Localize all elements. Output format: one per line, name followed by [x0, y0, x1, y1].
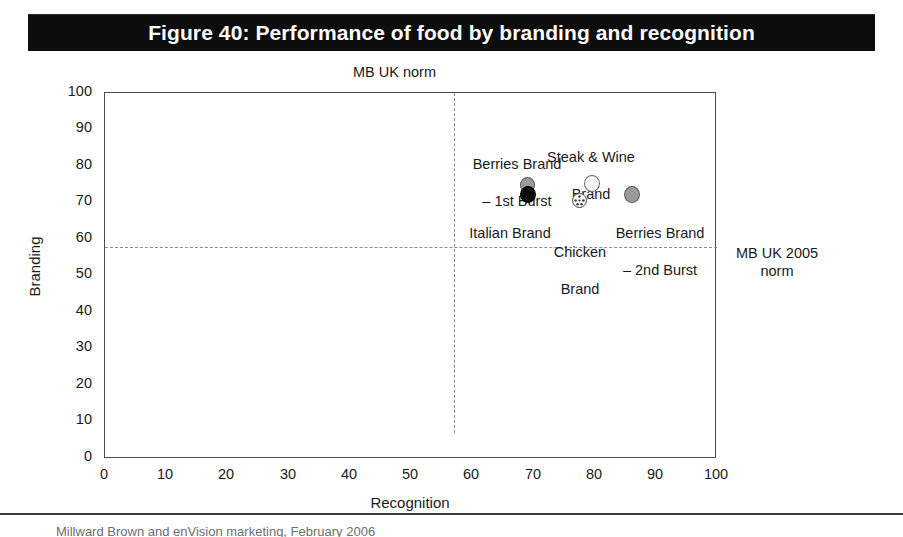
x-tick-0: 0 [84, 466, 124, 482]
x-tick-40: 40 [329, 466, 369, 482]
mb-uk-2005-norm-line2: norm [760, 263, 793, 279]
plot-area: Berries Brand – 1st Burst Italian Brand … [104, 92, 716, 458]
y-tick-0: 0 [56, 448, 92, 464]
y-tick-100: 100 [56, 83, 92, 99]
x-tick-10: 10 [145, 466, 185, 482]
figure-source-note: Millward Brown and enVision marketing, F… [56, 524, 375, 537]
x-tick-30: 30 [268, 466, 308, 482]
y-tick-30: 30 [56, 338, 92, 354]
x-tick-100: 100 [696, 466, 736, 482]
x-tick-20: 20 [206, 466, 246, 482]
data-point-italian-brand[interactable] [520, 186, 536, 203]
mb-uk-norm-label: MB UK norm [353, 64, 436, 80]
data-point-chicken-brand[interactable] [572, 193, 587, 208]
y-tick-50: 50 [56, 265, 92, 281]
point-label-berries-2nd-line1: Berries Brand [616, 225, 705, 241]
data-point-steak-and-wine-brand[interactable] [584, 175, 600, 192]
point-label-chicken-line2: Brand [561, 281, 600, 297]
x-tick-50: 50 [390, 466, 430, 482]
point-label-steak-line1: Steak & Wine [547, 149, 635, 165]
scatter-chart: Branding 100 90 80 70 60 50 40 30 20 10 … [0, 0, 903, 537]
y-tick-20: 20 [56, 375, 92, 391]
mb-uk-2005-norm-line1: MB UK 2005 [736, 245, 818, 261]
y-tick-90: 90 [56, 119, 92, 135]
x-axis-title: Recognition [104, 494, 716, 511]
mb-uk-2005-norm-label: MB UK 2005 norm [722, 244, 832, 280]
x-tick-60: 60 [451, 466, 491, 482]
point-label-steak-and-wine-brand: Steak & Wine Brand [516, 129, 666, 203]
x-tick-70: 70 [513, 466, 553, 482]
x-tick-80: 80 [574, 466, 614, 482]
y-tick-10: 10 [56, 411, 92, 427]
point-label-berries-2nd-line2: – 2nd Burst [623, 262, 697, 278]
footer-divider [0, 513, 903, 515]
y-tick-40: 40 [56, 302, 92, 318]
data-point-berries-brand-2nd-burst[interactable] [624, 186, 640, 203]
y-axis-title: Branding [26, 207, 43, 327]
x-tick-90: 90 [635, 466, 675, 482]
point-label-berries-brand-2nd-burst: Berries Brand – 2nd Burst [595, 205, 725, 279]
y-tick-60: 60 [56, 229, 92, 245]
y-tick-70: 70 [56, 192, 92, 208]
y-tick-80: 80 [56, 156, 92, 172]
